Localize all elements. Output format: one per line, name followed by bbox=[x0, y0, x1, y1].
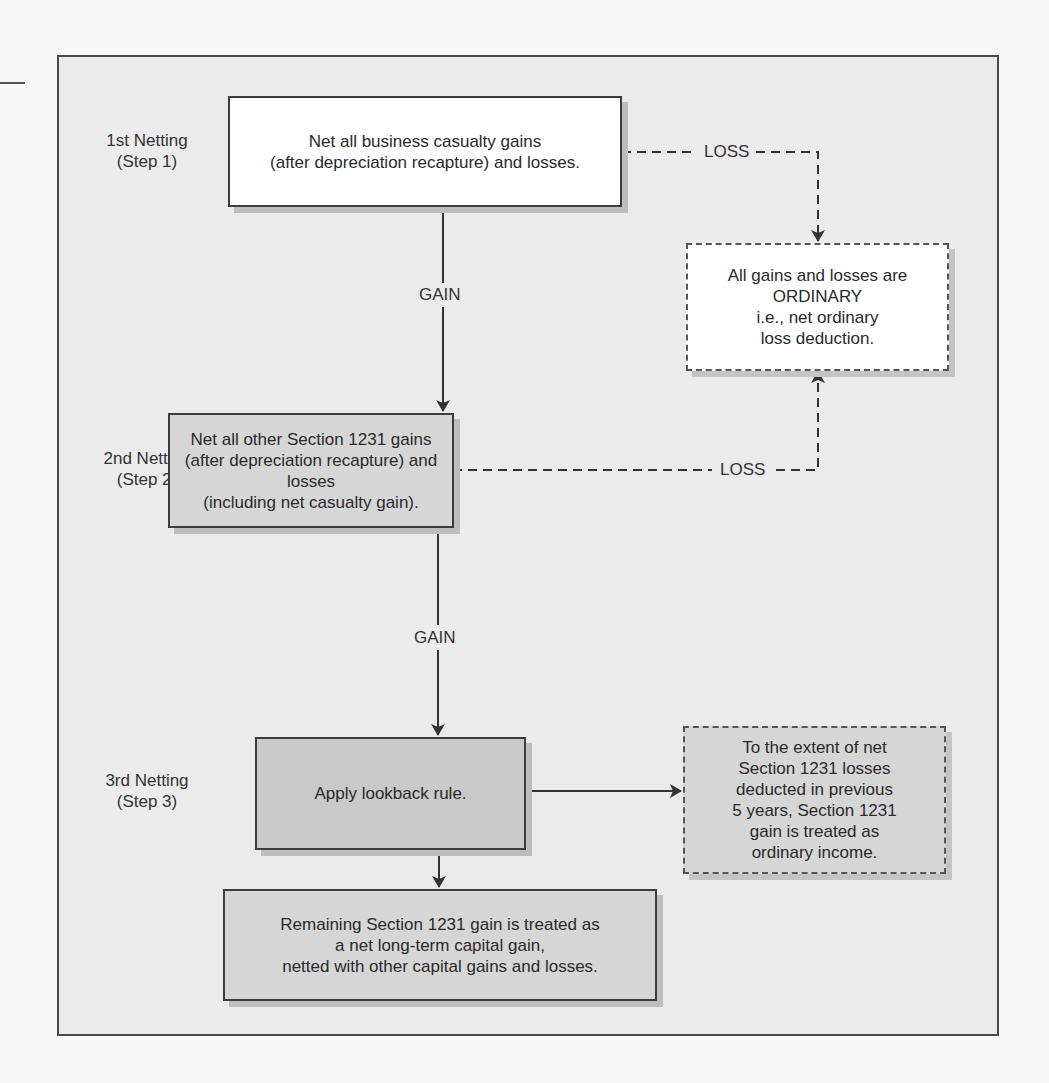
step-1-box: Net all business casualty gains (after d… bbox=[228, 96, 622, 207]
lookback-result-text: To the extent of net Section 1231 losses… bbox=[732, 737, 896, 863]
final-treatment-text: Remaining Section 1231 gain is treated a… bbox=[280, 914, 599, 977]
step-3-label: 3rd Netting (Step 3) bbox=[92, 770, 202, 812]
step-3-label-title: 3rd Netting bbox=[92, 770, 202, 791]
lookback-result-box: To the extent of net Section 1231 losses… bbox=[683, 726, 946, 874]
ordinary-treatment-box: All gains and losses are ORDINARY i.e., … bbox=[686, 243, 949, 371]
step-1-label: 1st Netting (Step 1) bbox=[92, 130, 202, 172]
step-3-box: Apply lookback rule. bbox=[255, 737, 526, 850]
step-3-box-text: Apply lookback rule. bbox=[314, 783, 466, 804]
step-1-label-title: 1st Netting bbox=[92, 130, 202, 151]
step-2-gain-label: GAIN bbox=[410, 628, 460, 648]
final-treatment-box: Remaining Section 1231 gain is treated a… bbox=[223, 889, 657, 1001]
step-1-label-subtitle: (Step 1) bbox=[92, 151, 202, 172]
step-1-box-text: Net all business casualty gains (after d… bbox=[270, 131, 580, 173]
step-2-box: Net all other Section 1231 gains (after … bbox=[168, 413, 454, 528]
page-edge-rule bbox=[0, 82, 25, 84]
step-1-loss-label: LOSS bbox=[700, 142, 753, 162]
step-2-loss-label: LOSS bbox=[716, 460, 769, 480]
ordinary-treatment-text: All gains and losses are ORDINARY i.e., … bbox=[728, 265, 908, 349]
step-3-label-subtitle: (Step 3) bbox=[92, 791, 202, 812]
step-2-box-text: Net all other Section 1231 gains (after … bbox=[170, 429, 452, 513]
step-1-gain-label: GAIN bbox=[415, 285, 465, 305]
